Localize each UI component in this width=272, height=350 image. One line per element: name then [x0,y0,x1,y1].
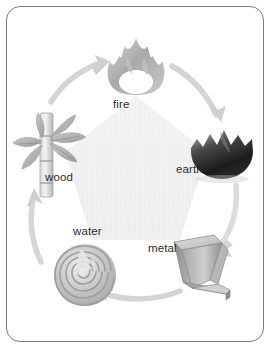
flame-icon [108,38,165,95]
whirlpool-spiral-icon [54,244,116,306]
five-elements-diagram: fire earth metal water wood [0,0,272,350]
diagram-canvas [0,0,272,350]
arrow-water-to-wood [27,188,43,262]
node-label-earth: earth [176,164,203,176]
arrow-fire-to-earth [172,66,226,122]
node-label-wood: wood [45,172,73,184]
node-label-fire: fire [113,99,129,111]
arrow-wood-to-fire [51,55,110,102]
node-label-water: water [73,226,102,238]
node-label-metal: metal [148,243,177,255]
